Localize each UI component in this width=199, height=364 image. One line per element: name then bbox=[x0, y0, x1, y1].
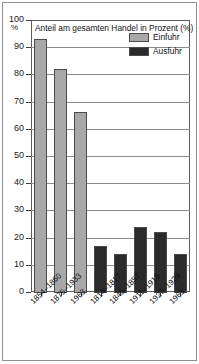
y-tick-0 bbox=[26, 292, 31, 293]
y-tick-50 bbox=[26, 156, 31, 157]
y-axis-label-50: 50 bbox=[0, 151, 24, 160]
legend-label: Ausfuhr bbox=[153, 47, 182, 56]
legend-item-einfuhr[interactable]: Einfuhr bbox=[129, 31, 191, 43]
y-axis-label-40: 40 bbox=[0, 178, 24, 187]
y-axis-label-20: 20 bbox=[0, 233, 24, 242]
legend-item-ausfuhr[interactable]: Ausfuhr bbox=[129, 45, 191, 57]
chart-figure: 1009080706050403020100 % Anteil am gesam… bbox=[0, 0, 199, 364]
legend-swatch-icon-ausfuhr bbox=[129, 47, 149, 56]
y-axis-unit-label: % bbox=[11, 24, 18, 32]
y-tick-60 bbox=[26, 129, 31, 130]
y-axis-label-80: 80 bbox=[0, 69, 24, 78]
legend-label: Einfuhr bbox=[153, 33, 180, 42]
bar bbox=[34, 39, 47, 293]
y-tick-70 bbox=[26, 102, 31, 103]
y-axis-label-90: 90 bbox=[0, 42, 24, 51]
legend-swatch-icon-einfuhr bbox=[129, 33, 149, 42]
y-tick-30 bbox=[26, 210, 31, 211]
y-axis-label-60: 60 bbox=[0, 124, 24, 133]
y-tick-10 bbox=[26, 265, 31, 266]
y-tick-100 bbox=[26, 20, 31, 21]
bar bbox=[74, 112, 87, 293]
bar bbox=[54, 69, 67, 293]
chart-legend: EinfuhrAusfuhr bbox=[129, 31, 191, 59]
y-axis-label-0: 0 bbox=[0, 287, 24, 296]
y-tick-20 bbox=[26, 238, 31, 239]
y-tick-90 bbox=[26, 47, 31, 48]
y-axis-label-10: 10 bbox=[0, 260, 24, 269]
y-axis-label-70: 70 bbox=[0, 97, 24, 106]
y-axis-label-30: 30 bbox=[0, 205, 24, 214]
y-tick-80 bbox=[26, 74, 31, 75]
y-tick-40 bbox=[26, 183, 31, 184]
